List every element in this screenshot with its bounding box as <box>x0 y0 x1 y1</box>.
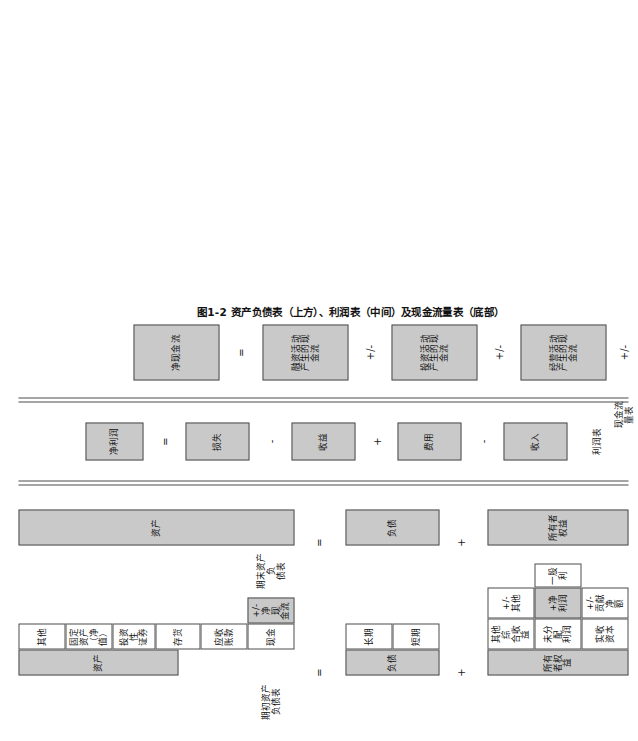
row2-equity-box: 所有者权益 <box>487 509 628 545</box>
row1-equity-delta-net-profit: +净 利润 <box>534 587 581 618</box>
row1-equity-delta-other: +/- 其他 <box>487 587 534 618</box>
row1-asset-item-securities: 投资性 证券 <box>112 623 155 649</box>
row-label-beginning-balance-sheet: 期初资产 负债表 <box>240 681 300 721</box>
row4-item-operating-cash-flow: 经营活动 产生的现 金流 <box>520 324 606 380</box>
row2-operator-plus: + <box>452 529 468 555</box>
row1-net-cash-flow-delta: +/-净 现 金流 <box>247 597 294 623</box>
row1-operator-plus: + <box>452 659 468 685</box>
row-label-ending-balance-sheet-line2: 债表 <box>275 561 285 579</box>
row-label-beginning-balance-sheet-line2: 负债表 <box>270 688 280 715</box>
row1-asset-item-inventory: 存货 <box>155 623 200 649</box>
row4-operator-plusminus-2: +/- <box>361 324 377 380</box>
row-label-ending-balance-sheet-line1: 期末资产负 <box>255 549 276 591</box>
row3-item-revenue: 收入 <box>503 422 567 460</box>
row1-dividend-cell: 一股利 <box>534 563 581 587</box>
row4-lead-operator-plusminus: +/- <box>615 324 631 380</box>
row-label-income-statement: 利润表 <box>586 415 606 467</box>
row1-asset-item-cash: 现金 <box>247 623 294 649</box>
section-divider-1b <box>18 480 628 481</box>
row4-operator-equals: = <box>232 324 248 380</box>
row1-equity-item-oci: 其他综 合收益 <box>487 618 534 649</box>
row1-equity-item-retained-earnings: 未分配 利润 <box>534 618 581 649</box>
row3-operator-minus-1: - <box>474 422 490 460</box>
row1-equity-item-paid-in-capital: 实收 资本 <box>581 618 628 649</box>
row2-operator-equals: = <box>310 529 326 555</box>
row1-equity-header: 所有者权益 <box>487 649 628 675</box>
row3-operator-minus-2: - <box>262 422 278 460</box>
section-divider-2 <box>18 401 628 402</box>
row2-assets-box: 资产 <box>18 509 294 545</box>
section-divider-2b <box>18 397 628 398</box>
row4-item-financing-cash-flow: 融资活动 产生的现 金流 <box>262 324 348 380</box>
row-label-ending-balance-sheet: 期末资产负 债表 <box>240 549 300 591</box>
row3-item-losses: 损失 <box>185 422 249 460</box>
row1-assets-header: 资产 <box>18 649 178 675</box>
section-divider-1 <box>18 484 628 485</box>
row1-operator-equals: = <box>310 659 326 685</box>
row4-item-investing-cash-flow: 投资活动 产生的现 金流 <box>391 324 477 380</box>
row4-operator-plusminus-1: +/- <box>490 324 506 380</box>
row-label-cash-flow-statement-line1: 现金流 <box>613 401 623 428</box>
row3-operator-plus: + <box>368 422 384 460</box>
row4-item-net-cash-flow: 净现金流 <box>133 324 219 380</box>
row3-item-net-profit: 净利润 <box>85 422 143 460</box>
row1-asset-item-receivables: 应收 账款 <box>200 623 247 649</box>
row1-asset-item-other: 其他 <box>18 623 65 649</box>
row3-operator-equals: = <box>156 422 172 460</box>
row1-liability-item-long-term: 长期 <box>345 623 392 649</box>
row-label-cash-flow-statement-line2: 量表 <box>623 405 633 423</box>
row3-item-gains: 收益 <box>291 422 355 460</box>
row-label-cash-flow-statement: 现金流 量表 <box>606 387 638 441</box>
row1-equity-delta-contribution: +/- 贡献净 额 <box>581 587 628 618</box>
figure-caption: 图1-2 资产负债表（上方）、利润表（中间）及现金流量表（底部） <box>196 304 503 319</box>
row2-liabilities-box: 负债 <box>345 509 439 545</box>
row1-liabilities-header: 负债 <box>345 649 439 675</box>
row1-asset-item-fixed-assets: 固定资产 （净值） <box>65 623 112 649</box>
row1-liability-item-short-term: 短期 <box>392 623 439 649</box>
row3-item-expenses: 费用 <box>397 422 461 460</box>
row-label-beginning-balance-sheet-line1: 期初资产 <box>260 683 270 719</box>
